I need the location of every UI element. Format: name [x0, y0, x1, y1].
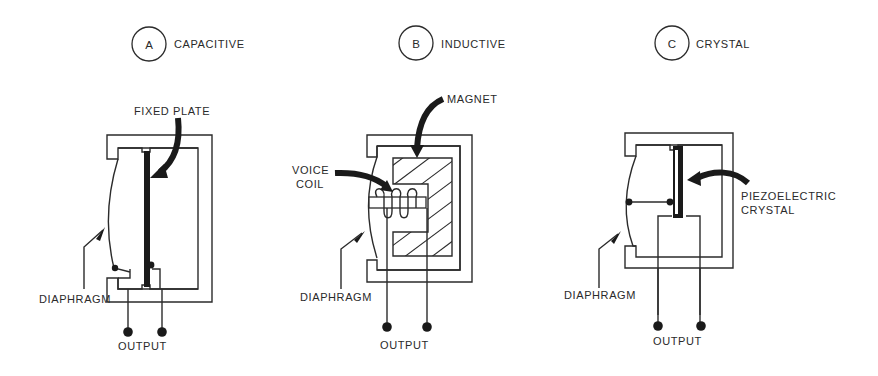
housing-inner-bottom: [118, 278, 198, 289]
output-terminal-right: [157, 327, 167, 337]
diaphragm-arrowhead: [96, 227, 105, 241]
magnet-arrow: [417, 99, 443, 148]
crystal-arrowhead: [687, 171, 701, 186]
panel-letter: B: [412, 38, 420, 50]
panel-title: CAPACITIVE: [174, 38, 245, 50]
diaphragm-leader: [341, 233, 362, 289]
output-terminal-right: [696, 321, 706, 331]
output-terminal-left: [123, 327, 133, 337]
voice-coil-label-line2: COIL: [296, 178, 324, 190]
panel-capacitive: A CAPACITIVE FIXED PLATE DIAPHRAGM OUTPU…: [39, 27, 245, 352]
fixed-plate-arrow: [160, 118, 179, 172]
output-terminal-right: [422, 322, 432, 332]
fixed-plate-label: FIXED PLATE: [134, 105, 210, 117]
output-terminal-left: [653, 321, 663, 331]
panel-b-heading: B INDUCTIVE: [399, 26, 506, 60]
panel-title: INDUCTIVE: [441, 38, 506, 50]
panel-a-heading: A CAPACITIVE: [132, 27, 245, 61]
crystal-joint: [667, 199, 674, 206]
crystal-label-line1: PIEZOELECTRIC: [741, 190, 836, 202]
diaphragm-joint: [112, 265, 118, 271]
magnet-arrowhead: [410, 145, 424, 158]
housing-inner: [118, 148, 198, 152]
voice-coil-arrow: [335, 173, 386, 186]
output-terminal-left: [382, 322, 392, 332]
microphone-types-diagram: A CAPACITIVE FIXED PLATE DIAPHRAGM OUTPU…: [0, 0, 878, 376]
diaphragm-label: DIAPHRAGM: [39, 293, 111, 305]
diaphragm-leader: [599, 234, 618, 288]
crystal-pedestal: [658, 216, 700, 315]
panel-title: CRYSTAL: [696, 38, 750, 50]
diaphragm-label: DIAPHRAGM: [564, 289, 636, 301]
panel-inductive: B INDUCTIVE VOICE COIL: [292, 26, 506, 351]
crystal-highlight: [675, 150, 678, 214]
panel-c-heading: C CRYSTAL: [655, 26, 750, 60]
diaphragm: [108, 159, 130, 272]
output-label: OUTPUT: [653, 335, 702, 347]
voice-coil-former: [369, 197, 426, 208]
output-label: OUTPUT: [118, 340, 167, 352]
panel-letter: A: [145, 39, 153, 51]
diaphragm-label: DIAPHRAGM: [300, 291, 372, 303]
panel-crystal: C CRYSTAL PIEZOELECTRIC CRYSTAL DIAPHRAG…: [564, 26, 836, 347]
panel-letter: C: [668, 38, 676, 50]
diaphragm-joint: [626, 199, 633, 206]
voice-coil-label-line1: VOICE: [292, 164, 329, 176]
housing-step-bottom: [118, 269, 160, 289]
plate-joint: [148, 262, 155, 269]
crystal-label-line2: CRYSTAL: [741, 204, 795, 216]
magnet-label: MAGNET: [447, 93, 498, 105]
output-label: OUTPUT: [380, 339, 429, 351]
